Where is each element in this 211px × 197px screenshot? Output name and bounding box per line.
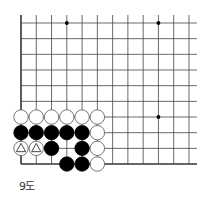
black-stone <box>44 125 58 139</box>
diagram-caption: 9도 <box>19 177 35 193</box>
black-stone <box>75 141 89 155</box>
white-stone <box>14 110 28 124</box>
white-stone <box>60 110 74 124</box>
go-board-diagram <box>0 0 211 197</box>
black-stone <box>14 125 28 139</box>
black-stone <box>60 125 74 139</box>
star-point <box>157 115 161 119</box>
white-stone <box>75 110 89 124</box>
star-point <box>65 21 69 25</box>
white-stone <box>14 141 28 155</box>
black-stone <box>44 141 58 155</box>
white-stone <box>90 157 104 171</box>
stones-layer <box>14 110 105 171</box>
board-grid <box>21 15 197 164</box>
white-stone <box>90 125 104 139</box>
white-stone <box>29 110 43 124</box>
white-stone <box>90 141 104 155</box>
black-stone <box>29 125 43 139</box>
black-stone <box>60 157 74 171</box>
white-stone <box>44 110 58 124</box>
black-stone <box>75 125 89 139</box>
white-stone <box>29 141 43 155</box>
black-stone <box>75 157 89 171</box>
star-point <box>157 21 161 25</box>
white-stone <box>90 110 104 124</box>
